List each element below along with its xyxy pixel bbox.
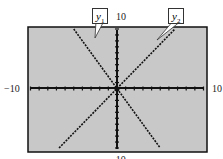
y2-callout: y2 (168, 8, 184, 24)
y1-callout: y1 (92, 8, 108, 24)
plot-area (0, 0, 223, 159)
x-max-label: 10 (212, 83, 222, 94)
x-min-label: −10 (4, 83, 20, 94)
y-min-label: −10 (110, 154, 126, 159)
y-max-label: 10 (116, 11, 126, 22)
